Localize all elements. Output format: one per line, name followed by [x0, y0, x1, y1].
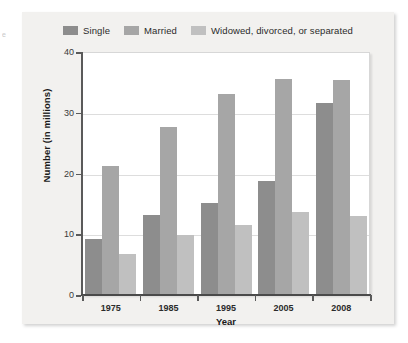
x-tick-label: 2005	[264, 303, 304, 313]
bars-layer	[82, 52, 370, 295]
y-axis-title: Number (in millions)	[41, 66, 52, 206]
x-tick-mark	[312, 295, 314, 301]
y-axis-ticks: 010203040	[48, 12, 74, 343]
legend-swatch-icon	[191, 26, 206, 35]
legend-swatch-icon	[124, 26, 139, 35]
x-tick-label: 1995	[206, 303, 246, 313]
legend-label: Widowed, divorced, or separated	[211, 25, 353, 36]
x-axis-line	[81, 294, 371, 296]
x-tick-mark	[140, 295, 142, 301]
bar	[350, 216, 367, 295]
y-tick-mark	[76, 52, 81, 54]
bar	[177, 235, 194, 295]
legend-label: Married	[144, 25, 177, 36]
y-tick-mark	[76, 295, 81, 297]
chart-legend: SingleMarriedWidowed, divorced, or separ…	[22, 25, 394, 36]
bar	[102, 166, 119, 295]
bar	[333, 80, 350, 295]
x-tick-mark	[197, 295, 199, 301]
bar	[218, 94, 235, 295]
y-tick-label: 40	[52, 47, 74, 57]
bar-group	[201, 52, 252, 295]
y-tick-mark	[76, 113, 81, 115]
bar	[316, 103, 333, 295]
bar	[258, 181, 275, 295]
legend-label: Single	[83, 25, 110, 36]
x-tick-mark	[82, 295, 84, 301]
bar-group	[85, 52, 136, 295]
y-axis-line	[81, 52, 83, 296]
chart-figure-card: SingleMarriedWidowed, divorced, or separ…	[22, 12, 394, 324]
y-tick-label: 30	[52, 108, 74, 118]
y-tick-label: 0	[52, 290, 74, 300]
x-tick-label: 1985	[148, 303, 188, 313]
bar	[143, 215, 160, 295]
y-tick-label: 10	[52, 229, 74, 239]
legend-entry: Widowed, divorced, or separated	[191, 25, 353, 36]
bar	[160, 127, 177, 295]
x-axis-title: Year	[82, 316, 370, 327]
legend-entry: Married	[124, 25, 177, 36]
x-tick-mark	[255, 295, 257, 301]
y-tick-mark	[76, 174, 81, 176]
page-margin-text-fragment: e	[2, 30, 14, 40]
bar-group	[143, 52, 194, 295]
y-tick-mark	[76, 234, 81, 236]
bar	[235, 225, 252, 295]
y-tick-label: 20	[52, 169, 74, 179]
bar-group	[258, 52, 309, 295]
x-tick-label: 2008	[321, 303, 361, 313]
bar	[275, 79, 292, 295]
x-tick-label: 1975	[91, 303, 131, 313]
bar	[119, 254, 136, 295]
bar	[85, 239, 102, 295]
bar-group	[316, 52, 367, 295]
bar	[292, 212, 309, 295]
x-tick-mark	[370, 295, 372, 301]
bar	[201, 203, 218, 295]
figure-page: e SingleMarriedWidowed, divorced, or sep…	[0, 0, 408, 343]
